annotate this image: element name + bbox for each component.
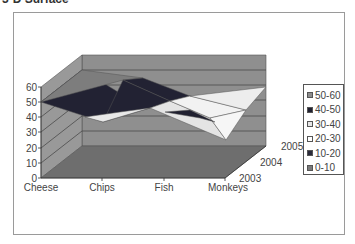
svg-text:2003: 2003 [239, 173, 262, 184]
svg-text:30: 30 [26, 127, 38, 138]
legend-item: 0-10 [304, 161, 343, 176]
legend: 50-60 40-50 30-40 20-30 10-20 0-10 [303, 84, 344, 175]
legend-swatch [307, 136, 313, 142]
legend-swatch [307, 121, 313, 127]
legend-swatch [307, 150, 313, 156]
legend-item: 10-20 [304, 146, 343, 161]
svg-text:20: 20 [26, 143, 38, 154]
svg-text:10: 10 [26, 158, 38, 169]
svg-text:50: 50 [26, 97, 38, 108]
svg-text:2004: 2004 [260, 157, 283, 168]
svg-text:40: 40 [26, 112, 38, 123]
legend-item: 20-30 [304, 132, 343, 147]
svg-text:60: 60 [26, 82, 38, 93]
y-axis [38, 87, 41, 178]
legend-swatch [307, 92, 313, 98]
legend-swatch [307, 107, 313, 113]
legend-swatch [307, 165, 313, 171]
svg-text:Chips: Chips [89, 182, 115, 193]
svg-text:Cheese: Cheese [24, 182, 59, 193]
legend-item: 40-50 [304, 103, 343, 118]
x-tick-labels: Cheese Chips Fish Monkeys [24, 182, 248, 193]
svg-text:Fish: Fish [155, 182, 174, 193]
y-tick-labels: 60 50 40 30 20 10 0 [26, 82, 38, 184]
svg-text:2005: 2005 [281, 141, 304, 152]
legend-item: 50-60 [304, 88, 343, 103]
legend-item: 30-40 [304, 117, 343, 132]
surface-plot: 60 50 40 30 20 10 0 Cheese Chips Fish Mo… [0, 0, 355, 244]
